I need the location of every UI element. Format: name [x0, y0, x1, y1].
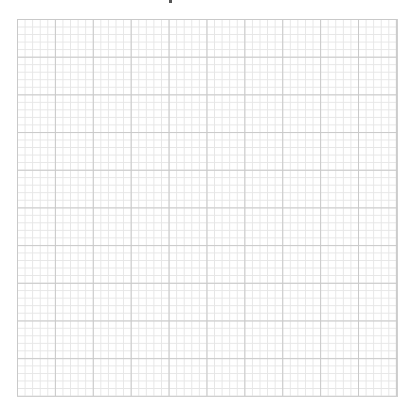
top-artifact-mark — [169, 0, 172, 3]
graph-paper-grid — [17, 19, 398, 397]
